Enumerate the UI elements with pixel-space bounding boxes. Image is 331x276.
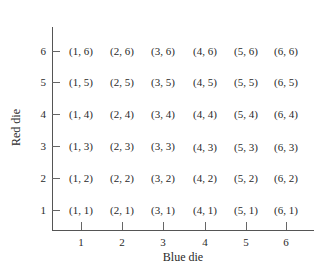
outcome-cell: (5, 2) — [226, 172, 266, 184]
outcome-cell: (1, 5) — [61, 76, 101, 88]
y-tick-6 — [52, 51, 60, 52]
outcome-cell: (3, 6) — [143, 45, 183, 57]
outcome-cell: (4, 3) — [185, 141, 225, 153]
outcome-cell: (5, 1) — [226, 204, 266, 216]
outcome-cell: (1, 1) — [61, 204, 101, 216]
outcome-cell: (4, 2) — [185, 172, 225, 184]
outcome-cell: (4, 4) — [185, 108, 225, 120]
y-tick-label: 5 — [30, 76, 46, 88]
outcome-cell: (6, 1) — [266, 204, 306, 216]
x-tick-label: 2 — [114, 236, 130, 248]
y-tick-1 — [52, 210, 60, 211]
outcome-cell: (1, 2) — [61, 172, 101, 184]
outcome-cell: (5, 5) — [226, 76, 266, 88]
outcome-cell: (1, 4) — [61, 108, 101, 120]
y-tick-label: 3 — [30, 140, 46, 152]
outcome-cell: (5, 4) — [226, 108, 266, 120]
outcome-cell: (1, 3) — [61, 140, 101, 152]
x-tick-4 — [205, 222, 206, 230]
x-tick-5 — [246, 222, 247, 230]
y-tick-label: 2 — [30, 172, 46, 184]
outcome-cell: (1, 6) — [61, 45, 101, 57]
outcome-cell: (5, 6) — [226, 45, 266, 57]
y-tick-2 — [52, 178, 60, 179]
outcome-cell: (5, 3) — [226, 141, 266, 153]
x-tick-3 — [163, 222, 164, 230]
outcome-cell: (4, 1) — [185, 204, 225, 216]
x-tick-2 — [122, 222, 123, 230]
x-tick-label: 5 — [238, 236, 254, 248]
x-tick-1 — [81, 222, 82, 230]
x-axis-line — [52, 230, 314, 231]
x-axis-title: Blue die — [143, 250, 223, 265]
outcome-cell: (3, 4) — [143, 108, 183, 120]
outcome-cell: (2, 2) — [102, 172, 142, 184]
outcome-cell: (2, 3) — [102, 140, 142, 152]
y-axis-line — [52, 27, 53, 231]
outcome-cell: (2, 6) — [102, 45, 142, 57]
x-tick-label: 3 — [155, 236, 171, 248]
outcome-cell: (4, 6) — [185, 45, 225, 57]
y-tick-4 — [52, 114, 60, 115]
y-tick-label: 6 — [30, 45, 46, 57]
y-tick-5 — [52, 82, 60, 83]
x-tick-label: 4 — [197, 236, 213, 248]
outcome-cell: (2, 5) — [102, 76, 142, 88]
y-axis-title: Red die — [9, 98, 24, 158]
outcome-cell: (6, 5) — [266, 76, 306, 88]
x-tick-6 — [286, 222, 287, 230]
outcome-cell: (3, 3) — [143, 140, 183, 152]
outcome-cell: (3, 1) — [143, 204, 183, 216]
outcome-cell: (4, 5) — [185, 76, 225, 88]
x-tick-label: 6 — [278, 236, 294, 248]
y-tick-label: 4 — [30, 108, 46, 120]
outcome-cell: (6, 2) — [266, 172, 306, 184]
outcome-cell: (6, 3) — [266, 141, 306, 153]
outcome-cell: (6, 6) — [266, 45, 306, 57]
y-tick-label: 1 — [30, 204, 46, 216]
x-tick-label: 1 — [73, 236, 89, 248]
outcome-cell: (3, 2) — [143, 172, 183, 184]
outcome-cell: (6, 4) — [266, 108, 306, 120]
y-tick-3 — [52, 146, 60, 147]
outcome-cell: (3, 5) — [143, 76, 183, 88]
outcome-cell: (2, 1) — [102, 204, 142, 216]
outcome-cell: (2, 4) — [102, 108, 142, 120]
